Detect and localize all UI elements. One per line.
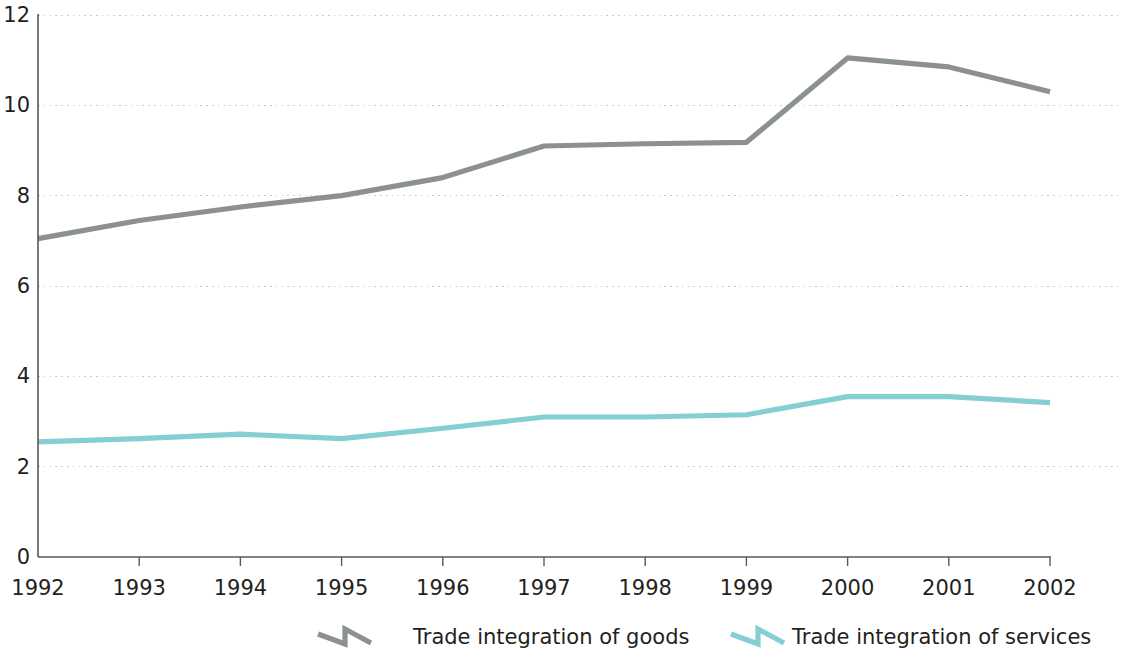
y-tick-label: 0 — [17, 545, 30, 569]
y-tick-label: 4 — [17, 364, 30, 388]
x-tick-label: 1995 — [315, 576, 368, 600]
x-tick-label: 2000 — [821, 576, 874, 600]
x-tick-label: 1994 — [214, 576, 267, 600]
x-tick-label: 1993 — [112, 576, 165, 600]
x-tick-label: 1996 — [416, 576, 469, 600]
y-tick-label: 8 — [17, 184, 30, 208]
x-tick-label: 1999 — [720, 576, 773, 600]
line-chart: 024681012 199219931994199519961997199819… — [0, 0, 1131, 670]
y-tick-label: 2 — [17, 455, 30, 479]
x-tick-label: 1992 — [11, 576, 64, 600]
y-tick-label: 10 — [3, 93, 30, 117]
x-tick-label: 1998 — [618, 576, 671, 600]
chart-background — [0, 0, 1131, 670]
x-tick-label: 2001 — [922, 576, 975, 600]
x-tick-label: 2002 — [1023, 576, 1076, 600]
chart-canvas: 024681012 199219931994199519961997199819… — [0, 0, 1131, 670]
legend-label-services: Trade integration of services — [791, 625, 1091, 649]
y-tick-label: 6 — [17, 274, 30, 298]
legend-label-goods: Trade integration of goods — [412, 625, 689, 649]
y-tick-label: 12 — [3, 3, 30, 27]
x-tick-label: 1997 — [517, 576, 570, 600]
